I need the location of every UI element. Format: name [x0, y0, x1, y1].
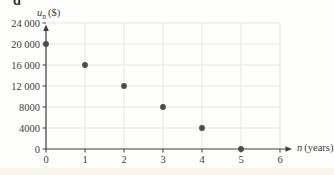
x-axis-arrowhead [286, 146, 293, 152]
data-point [199, 125, 205, 131]
chart-figure: 012345604000800012 00016 00020 00024 000… [0, 0, 334, 175]
x-tick-label: 0 [43, 154, 48, 165]
x-axis-variable: n [297, 142, 302, 153]
x-axis-unit: (years) [304, 142, 333, 153]
x-tick-label: 5 [238, 154, 243, 165]
data-point [82, 62, 88, 68]
y-tick-label: 8000 [19, 102, 40, 113]
x-tick-label: 1 [82, 154, 87, 165]
y-tick-label: 0 [35, 144, 40, 155]
y-tick-label: 4000 [19, 123, 40, 134]
x-tick-label: 4 [199, 154, 205, 165]
x-axis-label: n(years) [297, 142, 333, 154]
x-tick-label: 3 [160, 154, 165, 165]
y-axis-subscript: n [42, 12, 46, 21]
x-tick-label: 6 [277, 154, 282, 165]
y-tick-label: 20 000 [11, 39, 40, 50]
y-tick-label: 24 000 [11, 18, 40, 29]
data-point [121, 83, 127, 89]
y-tick-label: 16 000 [11, 60, 40, 71]
y-tick-label: 12 000 [11, 81, 40, 92]
scatter-plot: 012345604000800012 00016 00020 00024 000 [0, 0, 334, 175]
data-point [160, 104, 166, 110]
part-label: d [13, 0, 21, 8]
data-point [238, 146, 244, 152]
y-axis-unit: ($) [48, 7, 60, 18]
x-tick-label: 2 [121, 154, 126, 165]
y-axis-arrowhead [43, 25, 49, 32]
y-axis-label: un($) [37, 7, 60, 23]
data-point [43, 41, 49, 47]
